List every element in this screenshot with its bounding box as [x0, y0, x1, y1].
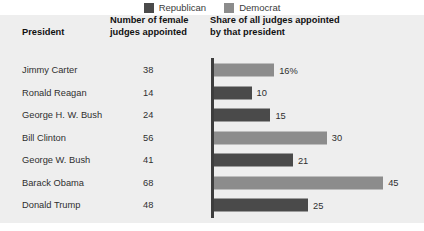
row-share-bar	[214, 109, 270, 122]
column-header-number-line2: judges appointed	[110, 27, 189, 39]
row-bar-group: 21	[214, 154, 308, 167]
chart-axis-line	[211, 58, 214, 218]
chart-container: Republican Democrat President Number of …	[0, 0, 424, 231]
row-share-bar	[214, 176, 383, 189]
row-president-name: Jimmy Carter	[22, 65, 77, 75]
row-share-bar	[214, 154, 293, 167]
legend-label-democrat: Democrat	[239, 3, 280, 13]
row-share-label: 10	[257, 88, 267, 98]
column-header-share-line1: Share of all judges appointed	[210, 15, 340, 27]
row-judge-count: 48	[143, 200, 153, 210]
square-swatch-icon	[144, 3, 154, 13]
column-header-share-line2: by that president	[210, 27, 340, 39]
row-bar-group: 25	[214, 199, 323, 212]
row-share-bar	[214, 64, 274, 77]
row-president-name: Barack Obama	[22, 178, 84, 188]
column-header-share: Share of all judges appointed by that pr…	[210, 15, 340, 38]
row-bar-group: 16%	[214, 64, 298, 77]
column-header-president: President	[22, 27, 64, 39]
row-president-name: Donald Trump	[22, 200, 80, 210]
row-share-label: 25	[313, 200, 323, 210]
row-share-label: 16%	[279, 65, 298, 75]
legend-label-republican: Republican	[159, 3, 207, 13]
row-share-bar	[214, 131, 327, 144]
row-share-label: 21	[298, 155, 308, 165]
row-bar-group: 10	[214, 86, 267, 99]
chart-legend: Republican Democrat	[0, 0, 424, 16]
column-header-number: Number of female judges appointed	[110, 15, 189, 38]
row-bar-group: 15	[214, 109, 286, 122]
row-share-label: 45	[388, 178, 398, 188]
row-president-name: Bill Clinton	[22, 133, 66, 143]
row-share-bar	[214, 86, 252, 99]
row-judge-count: 24	[143, 110, 153, 120]
row-judge-count: 38	[143, 65, 153, 75]
row-president-name: Ronald Reagan	[22, 88, 87, 98]
row-judge-count: 68	[143, 178, 153, 188]
legend-item-democrat: Democrat	[224, 3, 280, 13]
row-president-name: George H. W. Bush	[22, 110, 102, 120]
square-swatch-icon	[224, 3, 234, 13]
column-header-number-line1: Number of female	[110, 15, 189, 27]
legend-item-republican: Republican	[144, 3, 207, 13]
row-judge-count: 56	[143, 133, 153, 143]
row-share-label: 30	[332, 133, 342, 143]
row-bar-group: 30	[214, 131, 342, 144]
row-share-label: 15	[275, 110, 285, 120]
row-president-name: George W. Bush	[22, 155, 90, 165]
row-judge-count: 41	[143, 155, 153, 165]
row-bar-group: 45	[214, 176, 399, 189]
row-share-bar	[214, 199, 308, 212]
row-judge-count: 14	[143, 88, 153, 98]
